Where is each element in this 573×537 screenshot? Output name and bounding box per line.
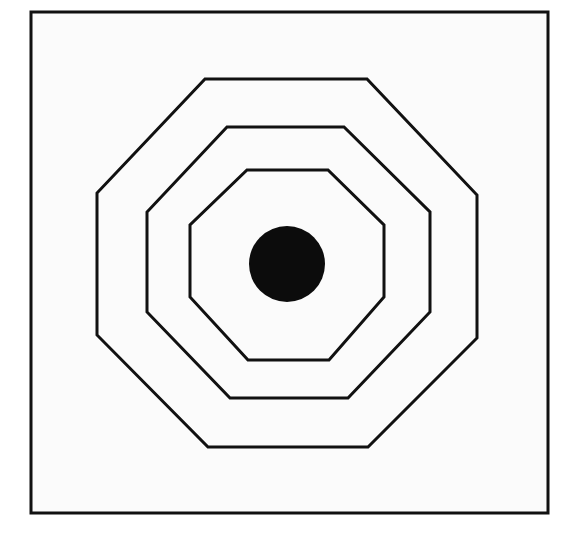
line-drawing xyxy=(0,0,573,537)
center-disc xyxy=(249,226,325,302)
figure-canvas xyxy=(0,0,573,537)
